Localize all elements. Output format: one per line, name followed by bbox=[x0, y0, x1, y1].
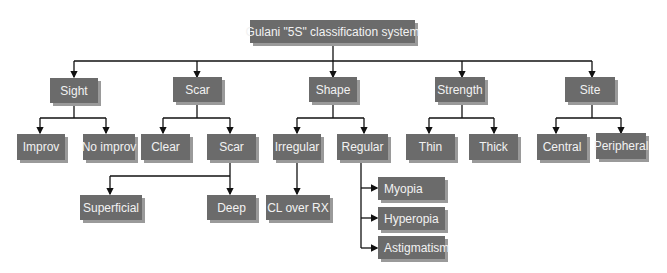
node-no-improv: No improv bbox=[83, 134, 135, 160]
node-myopia: Myopia bbox=[378, 177, 445, 200]
node-irregular: Irregular bbox=[273, 134, 321, 160]
node-scar-sub: Scar bbox=[207, 134, 256, 160]
node-clear: Clear bbox=[141, 134, 190, 160]
node-peripheral: Peripheral bbox=[596, 133, 646, 159]
node-cl-over-rx: CL over RX bbox=[266, 195, 330, 220]
node-sight: Sight bbox=[50, 78, 98, 103]
node-central: Central bbox=[537, 134, 587, 160]
node-deep: Deep bbox=[207, 195, 256, 220]
node-strength: Strength bbox=[435, 77, 485, 102]
node-shape: Shape bbox=[309, 77, 357, 102]
node-regular: Regular bbox=[337, 134, 388, 160]
node-improv: Improv bbox=[17, 134, 65, 160]
node-scar: Scar bbox=[173, 77, 222, 102]
node-superficial: Superficial bbox=[80, 195, 142, 220]
node-site: Site bbox=[565, 77, 615, 102]
node-hyperopia: Hyperopia bbox=[378, 207, 445, 230]
node-thin: Thin bbox=[406, 134, 455, 160]
node-astigmatism: Astigmatism bbox=[378, 236, 445, 259]
node-thick: Thick bbox=[469, 134, 518, 160]
root-node: Gulani "5S" classification system bbox=[250, 20, 415, 43]
